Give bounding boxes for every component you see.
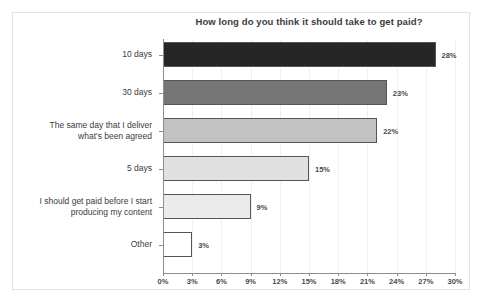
- x-axis-tick-label: 9%: [245, 277, 256, 286]
- bar[interactable]: [163, 42, 436, 67]
- bar-row: 15%: [163, 156, 455, 181]
- x-axis-tick-label: 6%: [216, 277, 227, 286]
- x-axis-tick-label: 21%: [360, 277, 375, 286]
- bar-value-label: 3%: [198, 240, 209, 249]
- category-label: The same day that I deliverwhat's been a…: [0, 120, 152, 142]
- category-label-line: I should get paid before I start: [0, 196, 152, 207]
- y-axis-tick: [159, 55, 163, 56]
- y-axis-tick: [159, 245, 163, 246]
- x-axis-tick-mark: [367, 273, 368, 276]
- category-label-line: 10 days: [0, 49, 152, 60]
- bar[interactable]: [163, 194, 251, 219]
- x-axis-tick-mark: [426, 273, 427, 276]
- category-label-line: producing my content: [0, 207, 152, 218]
- x-axis-tick-mark: [251, 273, 252, 276]
- x-axis-tick-label: 24%: [389, 277, 404, 286]
- chart-title: How long do you think it should take to …: [163, 16, 455, 27]
- category-label-line: Other: [0, 239, 152, 250]
- bar-row: 22%: [163, 118, 455, 143]
- y-axis-line: [163, 39, 164, 274]
- y-axis-tick: [159, 169, 163, 170]
- x-axis-tick-label: 27%: [418, 277, 433, 286]
- y-axis-tick: [159, 93, 163, 94]
- x-axis-tick-mark: [338, 273, 339, 276]
- x-axis-tick-label: 12%: [272, 277, 287, 286]
- x-axis-ticks: 0%3%6%9%12%15%18%21%24%27%30%: [163, 273, 455, 291]
- x-axis-tick-label: 15%: [301, 277, 316, 286]
- x-axis-tick-label: 18%: [331, 277, 346, 286]
- bar[interactable]: [163, 232, 192, 257]
- gridline: [455, 39, 456, 274]
- y-axis-tick: [159, 131, 163, 132]
- bar-value-label: 9%: [257, 202, 268, 211]
- bar-row: 3%: [163, 232, 455, 257]
- bar[interactable]: [163, 80, 387, 105]
- bar[interactable]: [163, 156, 309, 181]
- x-axis-tick-mark: [455, 273, 456, 276]
- bar-row: 28%: [163, 42, 455, 67]
- x-axis-tick-mark: [280, 273, 281, 276]
- bar-value-label: 28%: [442, 50, 457, 59]
- category-label: 5 days: [0, 163, 152, 174]
- category-label: Other: [0, 239, 152, 250]
- category-axis-labels: 10 days30 daysThe same day that I delive…: [0, 39, 158, 274]
- bar[interactable]: [163, 118, 377, 143]
- x-axis-tick-label: 3%: [187, 277, 198, 286]
- bar-value-label: 15%: [315, 164, 330, 173]
- x-axis-tick-mark: [397, 273, 398, 276]
- x-axis-tick-mark: [192, 273, 193, 276]
- x-axis-tick-label: 0%: [158, 277, 169, 286]
- y-axis-tick: [159, 207, 163, 208]
- plot-area: 28%23%22%15%9%3%: [163, 39, 455, 274]
- bar-row: 9%: [163, 194, 455, 219]
- chart-figure: How long do you think it should take to …: [0, 0, 481, 305]
- bar-value-label: 23%: [393, 88, 408, 97]
- x-axis-tick-mark: [221, 273, 222, 276]
- bar-value-label: 22%: [383, 126, 398, 135]
- category-label: I should get paid before I startproducin…: [0, 196, 152, 218]
- category-label: 10 days: [0, 49, 152, 60]
- category-label: 30 days: [0, 87, 152, 98]
- x-axis-tick-mark: [163, 273, 164, 276]
- category-label-line: The same day that I deliver: [0, 120, 152, 131]
- x-axis-tick-label: 30%: [447, 277, 462, 286]
- category-label-line: what's been agreed: [0, 131, 152, 142]
- x-axis-tick-mark: [309, 273, 310, 276]
- bar-row: 23%: [163, 80, 455, 105]
- category-label-line: 5 days: [0, 163, 152, 174]
- category-label-line: 30 days: [0, 87, 152, 98]
